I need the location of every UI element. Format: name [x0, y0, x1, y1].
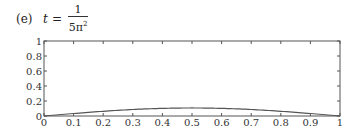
- x-tick-label: 0.2: [95, 117, 111, 128]
- x-tick-label: 0.4: [154, 117, 170, 128]
- x-tick-label: 0.7: [243, 117, 259, 128]
- plot-frame: [44, 41, 340, 116]
- line-chart: 00.10.20.30.40.50.60.70.80.9100.20.40.60…: [0, 0, 358, 135]
- y-tick-label: 0.8: [26, 51, 42, 62]
- y-tick-label: 1: [36, 36, 42, 47]
- x-tick-label: 1: [337, 117, 343, 128]
- x-tick-label: 0.1: [66, 117, 82, 128]
- x-tick-label: 0.5: [184, 117, 200, 128]
- x-tick-label: 0.6: [214, 117, 230, 128]
- x-tick-label: 0.3: [125, 117, 141, 128]
- x-tick-label: 0.8: [273, 117, 289, 128]
- y-tick-label: 0.2: [26, 96, 42, 107]
- y-tick-label: 0.6: [26, 66, 42, 77]
- y-tick-label: 0: [36, 111, 42, 122]
- x-tick-label: 0.9: [302, 117, 318, 128]
- y-tick-label: 0.4: [26, 81, 42, 92]
